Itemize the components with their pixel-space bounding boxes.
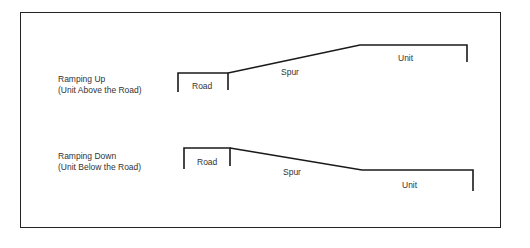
ramping-up-caption: Ramping Up (Unit Above the Road) xyxy=(58,74,142,95)
ramping-down-profile xyxy=(184,148,473,191)
ramping-up-profile xyxy=(178,45,467,92)
ramping-down-caption: Ramping Down (Unit Below the Road) xyxy=(58,151,141,172)
ramping-up-spur-unit-segment xyxy=(228,45,467,73)
ramping-down-unit-label: Unit xyxy=(402,180,417,190)
ramping-up-unit-label: Unit xyxy=(398,53,413,63)
ramping-up-road-label: Road xyxy=(192,81,212,91)
ramping-down-subtitle: (Unit Below the Road) xyxy=(58,162,141,173)
ramping-up-spur-label: Spur xyxy=(281,67,299,77)
ramping-down-spur-unit-segment xyxy=(230,148,473,191)
profile-lines xyxy=(0,0,530,248)
ramping-down-road-label: Road xyxy=(197,157,217,167)
ramping-down-spur-label: Spur xyxy=(283,167,301,177)
ramping-down-title: Ramping Down xyxy=(58,151,141,162)
ramping-up-title: Ramping Up xyxy=(58,74,142,85)
ramping-up-subtitle: (Unit Above the Road) xyxy=(58,85,142,96)
